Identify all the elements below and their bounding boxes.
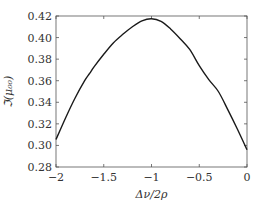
y-tick-label: 0.36 [28,75,53,88]
x-tick-label: −2 [48,171,64,184]
y-tick-label: 0.38 [28,53,53,66]
x-tick-label: 0 [244,171,251,184]
x-tick-label: −1 [143,171,159,184]
y-tick-label: 0.40 [28,32,53,45]
x-tick-label: −0.5 [186,171,213,184]
x-axis-label: Δν/2ρ [135,188,168,201]
y-tick-label: 0.32 [28,118,53,131]
x-tick-label: −1.5 [90,171,117,184]
y-tick-label: 0.34 [28,96,53,109]
y-tick-label: 0.42 [28,10,53,23]
y-axis-label: ℑ(μ₀₀) [2,76,15,109]
line-chart: 0.280.300.320.340.360.380.400.42 −2−1.5−… [0,0,264,209]
y-tick-label: 0.30 [28,139,53,152]
